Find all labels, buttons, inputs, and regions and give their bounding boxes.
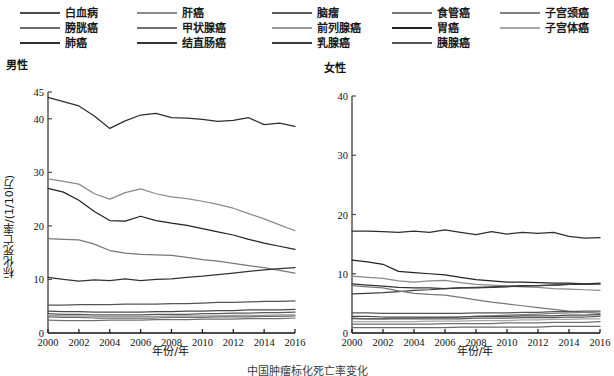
- legend-item-label: 食管癌: [437, 8, 470, 19]
- male-chart-panel: 男性 标化死亡率/(1/10万) 01020304045200020022004…: [0, 50, 310, 362]
- legend-item-label: 前列腺癌: [317, 23, 361, 34]
- male-line-chart: 0102030404520002002200420062008201020122…: [0, 50, 310, 362]
- series-line: [48, 301, 295, 305]
- female-line-chart: 0102030402000200220042006200820102012201…: [310, 50, 614, 362]
- legend-item[interactable]: 子宫颈癌: [500, 6, 589, 20]
- y-tick-label: 45: [34, 87, 45, 98]
- legend-line-swatch: [272, 42, 312, 44]
- legend-line-swatch: [272, 12, 312, 14]
- legend-item-label: 结直肠癌: [182, 38, 226, 49]
- legend-line-swatch: [392, 27, 432, 29]
- male-y-axis-title: 标化死亡率/(1/10万): [2, 128, 18, 278]
- legend-line-swatch: [20, 27, 60, 29]
- legend-line-swatch: [500, 27, 540, 29]
- legend-item[interactable]: 胰腺癌: [392, 36, 470, 50]
- female-chart-panel: 女性 0102030402000200220042006200820102012…: [310, 50, 614, 362]
- series-line: [352, 286, 600, 314]
- legend-line-swatch: [500, 12, 540, 14]
- series-line: [352, 230, 600, 238]
- legend-column-2: 脑瘤前列腺癌乳腺癌: [272, 6, 361, 51]
- legend-item-label: 乳腺癌: [317, 38, 350, 49]
- figure-caption: 中国肿瘤标化死亡率变化: [0, 362, 614, 376]
- legend-column-3: 食管癌胃癌胰腺癌: [392, 6, 470, 51]
- legend-item-label: 肝癌: [182, 8, 204, 19]
- legend-item[interactable]: 乳腺癌: [272, 36, 361, 50]
- legend-line-swatch: [392, 42, 432, 44]
- legend-item-label: 子宫颈癌: [545, 8, 589, 19]
- legend-item[interactable]: 脑瘤: [272, 6, 361, 20]
- legend-line-swatch: [272, 27, 312, 29]
- legend-item-label: 膀胱癌: [65, 23, 98, 34]
- legend: 白血病膀胱癌肺癌肝癌甲状腺癌结直肠癌脑瘤前列腺癌乳腺癌食管癌胃癌胰腺癌子宫颈癌子…: [0, 0, 614, 50]
- legend-column-1: 肝癌甲状腺癌结直肠癌: [137, 6, 226, 51]
- legend-item-label: 肺癌: [65, 38, 87, 49]
- series-line: [48, 239, 295, 273]
- series-line: [48, 312, 295, 315]
- female-x-axis-title: 年份/年: [350, 342, 600, 358]
- male-panel-title: 男性: [6, 56, 28, 72]
- series-line: [48, 318, 295, 321]
- series-line: [48, 268, 295, 281]
- legend-item[interactable]: 肺癌: [20, 36, 98, 50]
- legend-item[interactable]: 食管癌: [392, 6, 470, 20]
- legend-item[interactable]: 甲状腺癌: [137, 21, 226, 35]
- legend-line-swatch: [137, 42, 177, 44]
- legend-item-label: 脑瘤: [317, 8, 339, 19]
- legend-item[interactable]: 肝癌: [137, 6, 226, 20]
- y-tick-label: 10: [338, 269, 349, 280]
- legend-item-label: 胃癌: [437, 23, 459, 34]
- legend-item[interactable]: 前列腺癌: [272, 21, 361, 35]
- series-line: [48, 309, 295, 312]
- legend-item-label: 白血病: [65, 8, 98, 19]
- legend-line-swatch: [137, 12, 177, 14]
- legend-column-0: 白血病膀胱癌肺癌: [20, 6, 98, 51]
- legend-line-swatch: [137, 27, 177, 29]
- legend-item[interactable]: 胃癌: [392, 21, 470, 35]
- legend-item[interactable]: 结直肠癌: [137, 36, 226, 50]
- legend-item[interactable]: 膀胱癌: [20, 21, 98, 35]
- y-tick-label: 40: [34, 114, 45, 125]
- legend-line-swatch: [20, 42, 60, 44]
- y-tick-label: 30: [338, 150, 349, 161]
- y-tick-label: 20: [338, 210, 349, 221]
- legend-item[interactable]: 白血病: [20, 6, 98, 20]
- legend-line-swatch: [392, 12, 432, 14]
- y-tick-label: 30: [34, 167, 45, 178]
- y-tick-label: 40: [338, 91, 349, 102]
- legend-item[interactable]: 子宫体癌: [500, 21, 589, 35]
- legend-item-label: 甲状腺癌: [182, 23, 226, 34]
- series-line: [352, 260, 600, 284]
- legend-item-label: 子宫体癌: [545, 23, 589, 34]
- series-line: [48, 97, 295, 128]
- legend-line-swatch: [20, 12, 60, 14]
- legend-column-4: 子宫颈癌子宫体癌: [500, 6, 589, 36]
- y-tick-label: 20: [34, 221, 45, 232]
- female-panel-title: 女性: [324, 59, 346, 75]
- legend-item-label: 胰腺癌: [437, 38, 470, 49]
- male-x-axis-title: 年份/年: [48, 342, 293, 358]
- y-tick-label: 10: [34, 274, 45, 285]
- series-line: [352, 326, 600, 327]
